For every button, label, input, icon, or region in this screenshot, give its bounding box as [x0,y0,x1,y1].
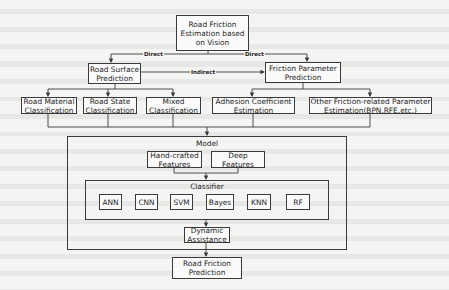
node-label: Other Friction-related Parameter Estimat… [311,97,431,115]
classifier-title: Classifier [86,182,328,191]
node-label: Adhesion Coefficient Estimation [216,97,292,115]
node-mixed-classification: Mixed Classification [146,97,201,114]
node-label: Dynamic Assistance [187,226,226,244]
classifier-bayes: Bayes [206,194,234,210]
method-label: ANN [102,198,118,207]
node-other-friction-parameter-estimation: Other Friction-related Parameter Estimat… [309,97,432,114]
node-label: Hand-crafted Features [150,151,198,169]
node-label: Road Material Classification [24,97,75,115]
node-friction-parameter-prediction: Friction Parameter Prediction [265,62,341,83]
node-label: Deep Features [222,151,254,169]
root-node-road-friction-estimation: Road Friction Estimation based on Vision [176,15,249,51]
node-road-friction-prediction: Road Friction Prediction [172,257,242,279]
method-label: CNN [138,198,154,207]
model-title: Model [68,139,346,148]
classifier-ann: ANN [99,194,122,210]
method-label: KNN [251,198,267,207]
node-label: Road State Classification [86,97,135,115]
node-dynamic-assistance: Dynamic Assistance [184,227,230,243]
node-deep-features: Deep Features [211,151,265,168]
node-label: Mixed Classification [149,97,198,115]
node-hand-crafted-features: Hand-crafted Features [147,151,202,168]
node-label: Road Surface Prediction [90,65,139,83]
classifier-svm: SVM [170,194,193,210]
method-label: RF [293,198,302,207]
edge-label-direct-left: Direct [143,51,164,57]
node-road-state-classification: Road State Classification [83,97,137,114]
classifier-rf: RF [286,194,310,210]
classifier-cnn: CNN [135,194,158,210]
classifier-knn: KNN [247,194,271,210]
method-label: SVM [173,198,189,207]
edge-label-indirect: Indirect [190,69,216,75]
node-road-surface-prediction: Road Surface Prediction [88,63,141,84]
node-label: Road Friction Prediction [183,259,231,277]
method-label: Bayes [209,198,231,207]
node-label: Friction Parameter Prediction [269,64,337,82]
root-node-label: Road Friction Estimation based on Vision [180,20,244,47]
node-adhesion-coefficient-estimation: Adhesion Coefficient Estimation [212,97,295,114]
node-road-material-classification: Road Material Classification [21,97,77,114]
edge-label-direct-right: Direct [244,51,265,57]
